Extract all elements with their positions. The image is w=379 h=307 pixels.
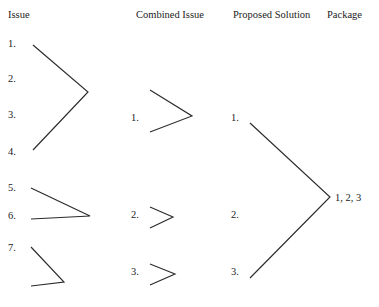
issue-node-1: 1. [8, 38, 16, 50]
issue-node-6: 6. [8, 210, 16, 222]
combined-issue-node-2: 2. [131, 209, 139, 221]
proposed-solution-node-2: 2. [231, 209, 239, 221]
connector-solution-bracket-1-3 [250, 123, 330, 278]
column-header-package: Package [327, 9, 362, 21]
package-node-1-2-3: 1, 2, 3 [335, 192, 361, 204]
issue-flow-diagram: Issue Combined Issue Proposed Solution P… [0, 0, 379, 307]
issue-node-4: 4. [8, 146, 16, 158]
connector-issue-bracket-7 [31, 247, 64, 286]
connector-combined-bracket-3 [150, 264, 175, 285]
issue-node-3: 3. [8, 109, 16, 121]
connector-lines-group [0, 0, 379, 307]
issue-node-5: 5. [8, 182, 16, 194]
combined-issue-node-3: 3. [131, 266, 139, 278]
issue-node-7: 7. [8, 242, 16, 254]
column-header-issue: Issue [8, 9, 30, 21]
connector-combined-bracket-2 [150, 207, 173, 228]
connector-issue-bracket-1-4 [33, 45, 88, 150]
column-header-combined-issue: Combined Issue [136, 9, 204, 21]
connector-combined-bracket-1 [150, 90, 192, 132]
column-header-proposed-solution: Proposed Solution [233, 9, 310, 21]
issue-node-2: 2. [8, 73, 16, 85]
connector-issue-bracket-5-6 [31, 188, 90, 219]
combined-issue-node-1: 1. [131, 112, 139, 124]
proposed-solution-node-3: 3. [231, 266, 239, 278]
proposed-solution-node-1: 1. [231, 112, 239, 124]
